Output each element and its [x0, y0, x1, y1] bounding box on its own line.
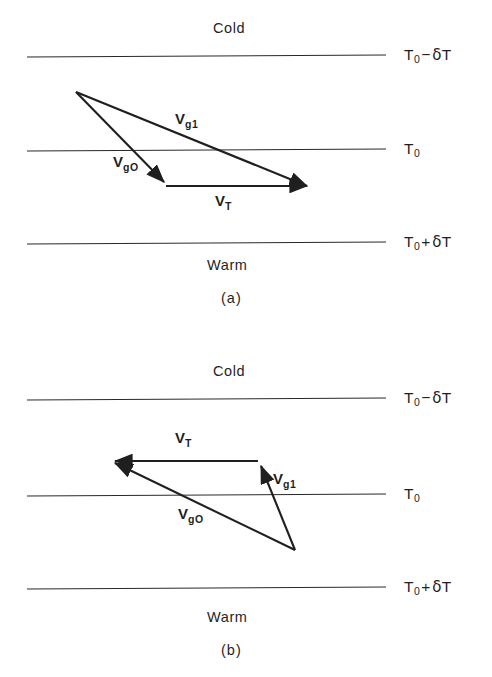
temp-operator: +	[420, 233, 432, 250]
isotherm-line-middle-b	[27, 494, 386, 496]
panel-b-isotherm-label-top: T0−δT	[404, 390, 452, 406]
vector-subscript: T	[185, 437, 192, 449]
temp-subscript: 0	[414, 492, 420, 504]
panel-b-caption: (b)	[221, 643, 242, 658]
panel-a-vector-label-vg1: Vg1	[175, 111, 198, 126]
figure-container: Cold T0−δT T0 T0+δT Vg1 VgO VT Warm (a) …	[0, 0, 492, 677]
panel-a-isotherm-label-bottom: T0+δT	[404, 234, 452, 250]
panel-b-isotherm-label-bottom: T0+δT	[404, 579, 452, 595]
vector-subscript: g1	[283, 478, 296, 490]
vector-base: V	[215, 192, 225, 209]
temp-base: T	[404, 140, 414, 157]
vector-arrow-vg0-b	[115, 463, 295, 550]
vector-arrow-vg1-a	[76, 92, 307, 186]
temp-unit: T	[442, 389, 452, 406]
vector-subscript: T	[225, 200, 232, 212]
temp-subscript: 0	[414, 240, 420, 252]
temp-delta-symbol: δ	[432, 233, 442, 251]
vector-diagram-svg	[0, 0, 492, 677]
temp-delta-symbol: δ	[432, 389, 442, 407]
isotherm-line-middle-a	[27, 149, 386, 151]
vector-base: V	[178, 505, 188, 522]
vector-base: V	[175, 110, 185, 127]
temp-base: T	[404, 233, 414, 250]
temp-base: T	[404, 46, 414, 63]
temp-operator: −	[420, 46, 432, 63]
panel-a-isotherm-label-top: T0−δT	[404, 47, 452, 63]
panel-b-vector-label-vg1: Vg1	[273, 471, 296, 486]
temp-delta-symbol: δ	[432, 46, 442, 64]
vector-base: V	[113, 153, 123, 170]
vector-subscript: gO	[123, 161, 139, 173]
temp-subscript: 0	[414, 147, 420, 159]
temp-base: T	[404, 389, 414, 406]
temp-delta-symbol: δ	[432, 578, 442, 596]
panel-a-vector-label-vg0: VgO	[113, 154, 139, 169]
vector-subscript: gO	[188, 513, 204, 525]
panel-a-vector-label-vt: VT	[215, 193, 232, 208]
isotherm-line-bottom-a	[27, 242, 386, 244]
panel-a-cold-label: Cold	[213, 21, 245, 36]
isotherm-line-bottom-b	[27, 587, 386, 589]
panel-b-vectors	[115, 461, 295, 550]
temp-unit: T	[442, 46, 452, 63]
panel-a-warm-label: Warm	[207, 258, 248, 273]
panel-b-isotherm-label-middle: T0	[404, 486, 420, 502]
panel-a-vectors	[76, 92, 307, 186]
temp-operator: +	[420, 578, 432, 595]
temp-subscript: 0	[414, 396, 420, 408]
temp-base: T	[404, 578, 414, 595]
panel-b-vector-label-vg0: VgO	[178, 506, 204, 521]
temp-operator: −	[420, 389, 432, 406]
panel-b-cold-label: Cold	[213, 364, 245, 379]
panel-b-vector-label-vt: VT	[175, 430, 192, 445]
isotherm-line-top-b	[27, 398, 386, 400]
temp-base: T	[404, 485, 414, 502]
isotherm-line-top-a	[27, 55, 386, 57]
vector-subscript: g1	[185, 118, 198, 130]
vector-base: V	[175, 429, 185, 446]
temp-subscript: 0	[414, 53, 420, 65]
panel-a-isotherm-label-middle: T0	[404, 141, 420, 157]
vector-base: V	[273, 470, 283, 487]
panel-a-isotherms	[27, 55, 386, 244]
temp-unit: T	[442, 233, 452, 250]
panel-b-warm-label: Warm	[207, 610, 248, 625]
temp-subscript: 0	[414, 585, 420, 597]
panel-b-isotherms	[27, 398, 386, 589]
panel-a-caption: (a)	[221, 291, 242, 306]
temp-unit: T	[442, 578, 452, 595]
